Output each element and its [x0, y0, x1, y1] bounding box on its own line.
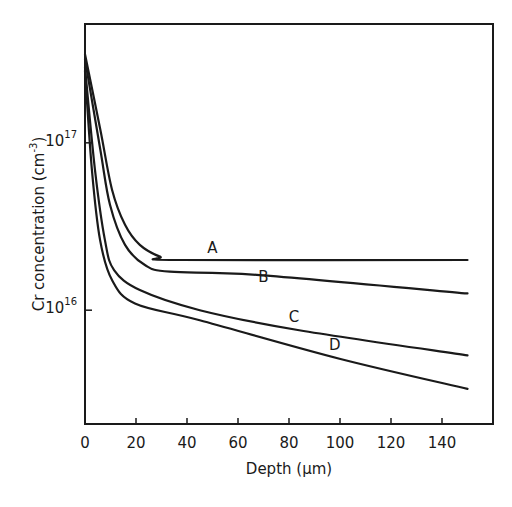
- x-tick-label: 0: [80, 434, 90, 452]
- curve-b: [85, 59, 468, 293]
- curve-d: [85, 71, 468, 389]
- x-tick-label: 100: [326, 434, 355, 452]
- x-tick-label: 20: [126, 434, 145, 452]
- x-tick-label: 60: [228, 434, 247, 452]
- y-tick-label: 1016: [45, 296, 77, 317]
- data-curves: [85, 54, 468, 389]
- x-tick-label: 140: [428, 434, 457, 452]
- curve-label-a: A: [207, 239, 218, 257]
- y-axis-title: Cr concentration (cm-3): [28, 137, 48, 312]
- curve-label-d: D: [329, 336, 341, 354]
- curve-labels: ABCD: [207, 239, 340, 354]
- plot-frame: [85, 24, 493, 424]
- y-tick-label: 1017: [45, 129, 77, 150]
- curve-c: [85, 68, 468, 356]
- x-tick-label: 80: [279, 434, 298, 452]
- curve-label-b: B: [258, 268, 268, 286]
- curve-a: [85, 54, 468, 260]
- x-axis-title: Depth (µm): [246, 460, 332, 478]
- curve-label-c: C: [289, 308, 299, 326]
- x-tick-label: 120: [377, 434, 406, 452]
- x-tick-label: 40: [177, 434, 196, 452]
- chart: 020406080100120140 10171016 ABCD Depth (…: [0, 0, 512, 507]
